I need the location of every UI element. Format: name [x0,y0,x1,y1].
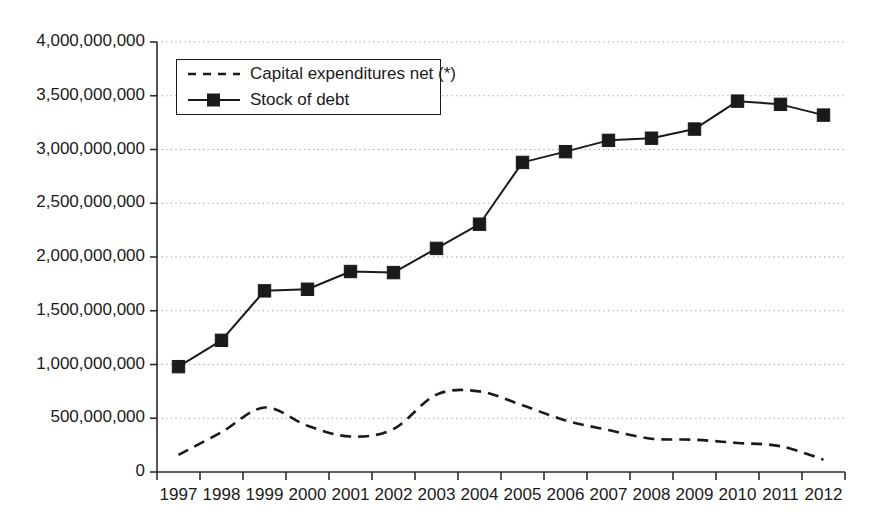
data-point-marker [559,145,571,157]
data-point-marker [774,98,786,110]
y-axis-tick-label: 500,000,000 [50,407,145,427]
series-stock-of-debt [179,101,824,367]
y-axis-tick-label: 1,000,000,000 [36,354,145,374]
data-point-marker [602,134,614,146]
legend-item-label: Stock of debt [250,90,349,110]
legend-solid-square-line-icon [186,90,242,110]
y-axis-tick-label: 1,500,000,000 [36,300,145,320]
data-point-marker [301,283,313,295]
legend-item[interactable]: Capital expenditures net (*) [186,62,456,86]
data-point-marker [516,156,528,168]
y-axis-tick-label: 2,500,000,000 [36,192,145,212]
y-axis-tick-label: 4,000,000,000 [36,31,145,51]
x-axis-ticks [157,472,845,480]
legend-dashed-line-icon [186,64,242,84]
data-point-marker [172,360,184,372]
data-point-marker [430,242,442,254]
data-point-marker [344,265,356,277]
data-point-marker [473,218,485,230]
data-point-marker [731,95,743,107]
data-point-marker [387,266,399,278]
y-axis-tick-label: 3,500,000,000 [36,85,145,105]
data-point-marker [688,123,700,135]
data-point-marker [215,334,227,346]
data-point-marker [817,109,829,121]
y-axis-tick-label: 3,000,000,000 [36,139,145,159]
y-axis-tick-label: 2,000,000,000 [36,246,145,266]
x-axis-tick-label: 2012 [794,485,854,505]
series-capital-expenditures-net [179,390,824,460]
y-axis-tick-label: 0 [136,461,145,481]
legend-item[interactable]: Stock of debt [186,88,349,112]
chart-container: 0500,000,0001,000,000,0001,500,000,0002,… [0,0,870,532]
series-stock-of-debt-markers [172,95,829,373]
y-axis-ticks [150,42,157,472]
legend-item-label: Capital expenditures net (*) [250,64,456,84]
data-point-marker [258,285,270,297]
data-point-marker [645,132,657,144]
